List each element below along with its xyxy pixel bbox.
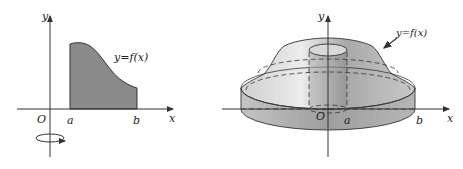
origin-label: O — [37, 113, 46, 126]
y-axis-label: y — [41, 10, 49, 23]
left-figure: y x O a b y=f(x) — [17, 10, 176, 157]
b-label: b — [133, 114, 140, 127]
x-axis-label: x — [169, 112, 176, 125]
curve-label-3d: y=f(x) — [395, 27, 427, 38]
origin-label-3d: O — [316, 110, 325, 123]
curve-label: y=f(x) — [113, 51, 148, 64]
right-figure: y x O a b y=f(x) — [222, 10, 454, 157]
a-label-3d: a — [344, 114, 351, 127]
b-label-3d: b — [416, 114, 423, 127]
x-axis-label-3d: x — [447, 112, 454, 125]
curve-pointer-arrow — [384, 38, 397, 48]
y-axis-label-3d: y — [317, 10, 325, 23]
a-label: a — [67, 114, 74, 127]
